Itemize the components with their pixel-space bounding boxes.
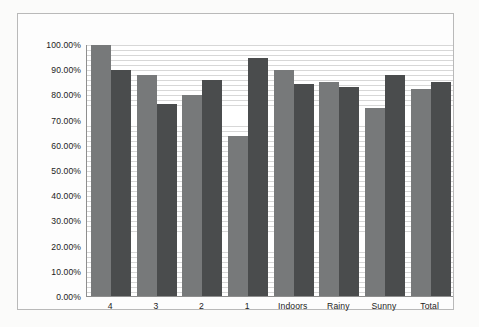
bar-indoors-series-2[interactable] bbox=[294, 84, 314, 297]
y-axis-tick-label: 30.00% bbox=[51, 216, 81, 226]
y-axis-tick-label: 60.00% bbox=[51, 141, 81, 151]
bar-2-series-2[interactable] bbox=[202, 80, 222, 297]
page-background: 0.00%10.00%20.00%30.00%40.00%50.00%60.00… bbox=[0, 0, 479, 327]
x-axis-tick-label: Total bbox=[407, 301, 453, 319]
y-axis-tick-label: 100.00% bbox=[46, 40, 81, 50]
bar-group bbox=[180, 45, 226, 297]
bar-1-series-1[interactable] bbox=[228, 136, 248, 297]
x-axis-tick-label: Indoors bbox=[270, 301, 316, 319]
x-axis-tick-label: 1 bbox=[224, 301, 270, 319]
bar-group bbox=[88, 45, 134, 297]
bar-rainy-series-1[interactable] bbox=[319, 82, 339, 297]
bar-sunny-series-2[interactable] bbox=[385, 75, 405, 297]
bar-4-series-2[interactable] bbox=[111, 70, 131, 297]
bar-3-series-2[interactable] bbox=[157, 104, 177, 297]
x-axis-tick-label: 4 bbox=[87, 301, 133, 319]
bar-indoors-series-1[interactable] bbox=[274, 70, 294, 297]
bar-group bbox=[317, 45, 363, 297]
plot-wrapper bbox=[86, 45, 453, 298]
bar-group bbox=[134, 45, 180, 297]
bar-group bbox=[362, 45, 408, 297]
x-axis-tick-label: Rainy bbox=[316, 301, 362, 319]
x-axis-tick-label: 2 bbox=[179, 301, 225, 319]
y-axis-tick-label: 0.00% bbox=[56, 292, 81, 302]
y-axis-tick-label: 80.00% bbox=[51, 90, 81, 100]
x-axis-tick-label: 3 bbox=[133, 301, 179, 319]
y-axis-tick-label: 90.00% bbox=[51, 65, 81, 75]
chart-frame: 0.00%10.00%20.00%30.00%40.00%50.00%60.00… bbox=[17, 13, 454, 310]
y-axis-tick-label: 50.00% bbox=[51, 166, 81, 176]
bar-rainy-series-2[interactable] bbox=[339, 87, 359, 297]
bar-groups bbox=[88, 45, 453, 297]
bar-total-series-2[interactable] bbox=[431, 82, 451, 297]
plot-area bbox=[86, 45, 453, 297]
y-axis-tick-label: 70.00% bbox=[51, 116, 81, 126]
bar-4-series-1[interactable] bbox=[91, 45, 111, 297]
x-axis-tick-label: Sunny bbox=[361, 301, 407, 319]
y-axis-tick-label: 20.00% bbox=[51, 242, 81, 252]
bar-group bbox=[271, 45, 317, 297]
bar-sunny-series-1[interactable] bbox=[365, 108, 385, 297]
bar-1-series-2[interactable] bbox=[248, 58, 268, 297]
bar-total-series-1[interactable] bbox=[411, 89, 431, 297]
bar-group bbox=[225, 45, 271, 297]
bar-3-series-1[interactable] bbox=[137, 75, 157, 297]
bar-group bbox=[408, 45, 453, 297]
bar-2-series-1[interactable] bbox=[182, 95, 202, 297]
y-axis-tick-labels: 0.00%10.00%20.00%30.00%40.00%50.00%60.00… bbox=[35, 45, 84, 297]
y-axis-tick-label: 10.00% bbox=[51, 267, 81, 277]
x-axis-tick-labels: 4321IndoorsRainySunnyTotal bbox=[87, 301, 452, 319]
y-axis-tick-label: 40.00% bbox=[51, 191, 81, 201]
